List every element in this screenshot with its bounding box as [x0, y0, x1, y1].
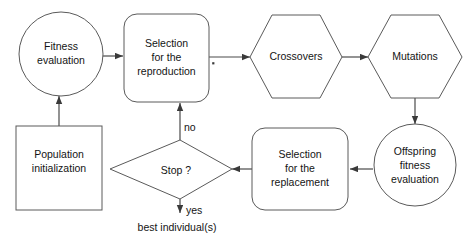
fitness-evaluation-label-line1: Fitness [44, 40, 78, 52]
flowchart-svg: Fitness evaluation Selection for the rep… [0, 0, 469, 242]
mutations-label: Mutations [392, 50, 438, 62]
selection-replacement-label-line1: Selection [278, 148, 321, 160]
population-initialization-label-line1: Population [34, 148, 84, 160]
node-selection-reproduction[interactable]: Selection for the reproduction [124, 14, 209, 102]
selection-reproduction-label-line2: for the [152, 51, 182, 63]
population-initialization-label-line2: initialization [32, 162, 86, 174]
selection-reproduction-label-line1: Selection [145, 37, 188, 49]
crossovers-label: Crossovers [269, 50, 322, 62]
offspring-fitness-label-line2: fitness [400, 159, 430, 171]
fitness-evaluation-label-line2: evaluation [37, 54, 85, 66]
edge-label-yes: yes [186, 204, 202, 216]
node-offspring-fitness-evaluation[interactable]: Offspring fitness evaluation [374, 124, 456, 206]
node-fitness-evaluation[interactable]: Fitness evaluation [19, 12, 103, 96]
selection-reproduction-label-line3: reproduction [137, 65, 196, 77]
selection-replacement-label-line2: for the [285, 162, 315, 174]
edge-label-no: no [184, 121, 196, 133]
stop-decision-label: Stop ? [161, 164, 192, 176]
nodes-layer: Fitness evaluation Selection for the rep… [16, 12, 462, 210]
selection-replacement-label-line3: replacement [271, 176, 329, 188]
node-crossovers[interactable]: Crossovers [250, 15, 342, 98]
offspring-fitness-label-line1: Offspring [394, 145, 437, 157]
node-population-initialization[interactable]: Population initialization [16, 126, 102, 210]
edges-layer [59, 56, 415, 213]
node-stop-decision[interactable]: Stop ? [110, 140, 232, 199]
flowchart-canvas: Fitness evaluation Selection for the rep… [0, 0, 469, 242]
offspring-fitness-label-line3: evaluation [391, 173, 439, 185]
asterisk-marker-icon [212, 62, 214, 64]
output-caption: best individual(s) [138, 221, 217, 233]
node-selection-replacement[interactable]: Selection for the replacement [252, 128, 348, 210]
node-mutations[interactable]: Mutations [368, 15, 462, 98]
